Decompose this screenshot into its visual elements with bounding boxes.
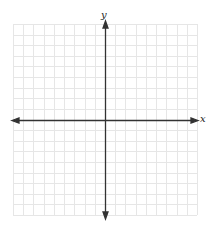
x-axis-label: x [200,113,206,124]
y-axis-down-arrow-icon [103,212,108,219]
y-axis-label: y [101,9,107,20]
axes [12,21,198,219]
coordinate-plane [0,0,212,226]
x-axis-right-arrow-icon [191,118,198,123]
y-axis-up-arrow-icon [103,21,108,28]
